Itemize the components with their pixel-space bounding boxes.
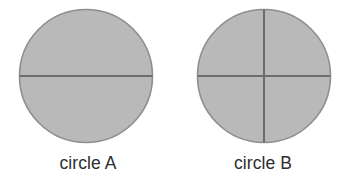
circle-b-label: circle B (175, 152, 351, 174)
figure-canvas: circle A circle B (0, 0, 351, 185)
circle-a-group (20, 10, 153, 143)
circle-a-label: circle A (0, 152, 176, 174)
circle-b-group (198, 10, 331, 143)
